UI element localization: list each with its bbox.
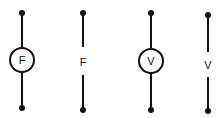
symbol-label: V: [147, 55, 155, 67]
plain-f-symbol: F: [80, 10, 87, 113]
terminal-dot-bottom: [205, 108, 211, 114]
circled-v-symbol: V: [139, 10, 163, 113]
terminal-dot-bottom: [19, 105, 25, 111]
terminal-dot-bottom: [80, 107, 86, 113]
circuit-symbols-diagram: F F V V: [0, 0, 223, 118]
symbol-label: F: [80, 56, 87, 68]
symbol-label: V: [204, 59, 212, 71]
circled-f-symbol: F: [10, 10, 34, 111]
plain-v-symbol: V: [204, 12, 212, 114]
symbol-label: F: [19, 54, 26, 66]
terminal-dot-bottom: [148, 107, 154, 113]
